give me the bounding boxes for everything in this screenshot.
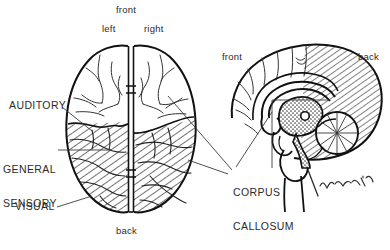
label-back-bottom: back bbox=[116, 226, 137, 236]
label-front-top: front bbox=[116, 5, 136, 15]
label-general-sensory-line1: GENERAL bbox=[3, 164, 57, 175]
label-back-sagittal: back bbox=[358, 52, 379, 62]
label-corpus-line2: CALLOSUM bbox=[233, 221, 294, 232]
label-visual: VISUAL bbox=[15, 201, 55, 212]
label-corpus-line1: CORPUS bbox=[233, 187, 294, 198]
brain-diagram-figure: front left right AUDITORY GENERAL SENSOR… bbox=[0, 0, 390, 250]
brain-diagram-svg bbox=[0, 0, 390, 250]
label-general-sensory: GENERAL SENSORY bbox=[3, 142, 57, 231]
label-left: left bbox=[102, 24, 115, 34]
label-auditory: AUDITORY bbox=[9, 100, 66, 111]
massa-intermedia bbox=[301, 112, 309, 120]
label-right: right bbox=[144, 24, 163, 34]
label-corpus-callosum: CORPUS CALLOSUM bbox=[233, 165, 294, 250]
label-front-sagittal: front bbox=[222, 52, 242, 62]
